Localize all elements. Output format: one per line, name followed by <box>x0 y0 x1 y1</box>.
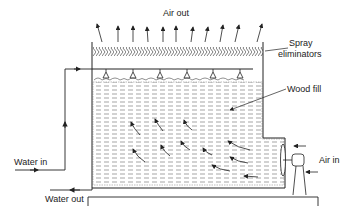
air-out-label: Air out <box>163 8 190 18</box>
water-out-pipe <box>50 188 92 190</box>
spray-cloud <box>94 78 244 80</box>
wood-fill <box>93 82 284 185</box>
base <box>88 197 318 206</box>
cooling-tower-diagram: Air out Spray eliminators Wood fill Wate… <box>0 0 352 219</box>
spray-label: Spray <box>289 38 313 48</box>
water-in-pipe <box>15 69 92 170</box>
wood-fill-label: Wood fill <box>287 84 321 94</box>
air-out-arrows <box>97 24 262 42</box>
eliminators-label: eliminators <box>278 49 322 59</box>
water-in-label: Water in <box>14 157 47 167</box>
air-in-label: Air in <box>319 155 340 165</box>
spray-eliminators <box>93 47 263 56</box>
spray-nozzles <box>92 69 253 78</box>
water-out-label: Water out <box>45 194 84 204</box>
fan <box>281 144 293 176</box>
motor <box>292 154 306 195</box>
